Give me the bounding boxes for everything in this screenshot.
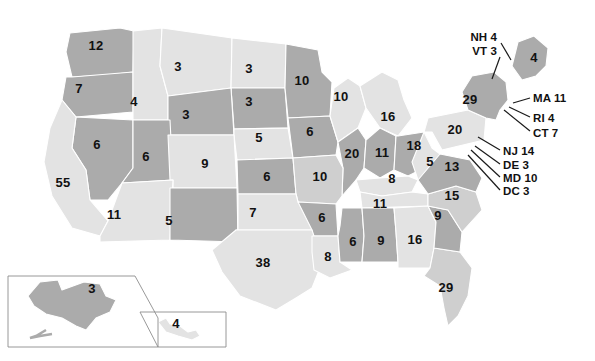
ev-label-ca: 55 xyxy=(56,176,71,189)
leader-line-nh xyxy=(501,43,511,60)
ev-label-ak: 3 xyxy=(88,282,95,295)
callout-label-dc: DC 3 xyxy=(503,186,530,198)
ev-label-or: 7 xyxy=(75,82,82,95)
callout-label-nj: NJ 14 xyxy=(503,146,534,158)
state-shapes-group xyxy=(28,28,548,340)
ev-label-tn: 11 xyxy=(373,197,387,210)
state-tn[interactable] xyxy=(360,192,428,208)
leader-line-nj xyxy=(478,137,500,150)
leader-line-ri xyxy=(509,107,530,117)
ev-label-va: 13 xyxy=(445,160,460,173)
callout-label-nh: NH 4 xyxy=(470,32,497,44)
ev-label-wv: 5 xyxy=(426,155,433,168)
ev-label-mi: 16 xyxy=(381,110,396,123)
ev-label-ne: 5 xyxy=(255,131,262,144)
state-or[interactable] xyxy=(62,72,133,117)
ev-label-sd: 3 xyxy=(245,95,252,108)
ev-label-tx: 38 xyxy=(256,256,271,269)
ev-label-co: 9 xyxy=(201,157,208,170)
ev-label-nc: 15 xyxy=(445,189,460,202)
electoral-college-map: 1274333103561016201118669610855511576113… xyxy=(0,0,595,361)
ev-label-nd: 3 xyxy=(245,62,252,75)
leader-line-de xyxy=(475,146,500,164)
ev-label-fl: 29 xyxy=(439,281,454,294)
ev-label-mo: 10 xyxy=(313,170,328,183)
ev-label-ga: 16 xyxy=(408,233,423,246)
ev-label-oh: 18 xyxy=(407,139,422,152)
state-wa[interactable] xyxy=(66,28,134,77)
ev-label-wa: 12 xyxy=(89,39,104,52)
callout-label-vt: VT 3 xyxy=(472,46,497,58)
leader-line-ma xyxy=(513,98,530,103)
ev-label-ky: 8 xyxy=(388,172,395,185)
state-ne[interactable] xyxy=(234,128,293,160)
ev-label-in: 11 xyxy=(375,146,389,159)
callout-label-ma: MA 11 xyxy=(533,93,566,105)
callout-label-de: DE 3 xyxy=(503,160,529,172)
callout-label-md: MD 10 xyxy=(503,173,537,185)
ev-label-me: 4 xyxy=(530,51,537,64)
ev-label-ks: 6 xyxy=(263,170,270,183)
ev-label-ok: 7 xyxy=(249,206,256,219)
ev-label-nv: 6 xyxy=(93,138,100,151)
ev-label-il: 20 xyxy=(345,147,360,160)
ev-label-ny: 29 xyxy=(463,93,478,106)
ev-label-sc: 9 xyxy=(434,209,441,222)
state-nm[interactable] xyxy=(170,188,238,242)
ev-label-mn: 10 xyxy=(295,74,310,87)
ev-label-la: 8 xyxy=(324,250,331,263)
ev-label-al: 9 xyxy=(377,234,384,247)
state-tx[interactable] xyxy=(212,230,320,310)
ev-label-hi: 4 xyxy=(172,317,179,330)
ev-label-ms: 6 xyxy=(349,235,356,248)
ev-label-nm: 5 xyxy=(165,214,172,227)
ev-label-ia: 6 xyxy=(306,125,313,138)
ev-label-az: 11 xyxy=(107,208,121,221)
leader-line-ct xyxy=(504,110,530,131)
alaska-aleutian-tail xyxy=(30,330,52,338)
ev-label-wy: 3 xyxy=(182,108,189,121)
state-mt[interactable] xyxy=(160,28,232,96)
state-nd[interactable] xyxy=(231,38,286,88)
ev-label-ut: 6 xyxy=(142,150,149,163)
ev-label-mt: 3 xyxy=(174,60,181,73)
ev-label-id: 4 xyxy=(130,95,137,108)
callout-label-ct: CT 7 xyxy=(533,128,558,140)
state-sd[interactable] xyxy=(231,88,288,129)
state-mi[interactable] xyxy=(360,72,412,136)
state-wy[interactable] xyxy=(168,88,234,135)
state-ak[interactable] xyxy=(28,280,116,330)
callout-label-ri: RI 4 xyxy=(533,113,555,125)
ev-label-wi: 10 xyxy=(334,90,349,103)
ev-label-ar: 6 xyxy=(318,211,325,224)
ev-label-pa: 20 xyxy=(448,123,463,136)
